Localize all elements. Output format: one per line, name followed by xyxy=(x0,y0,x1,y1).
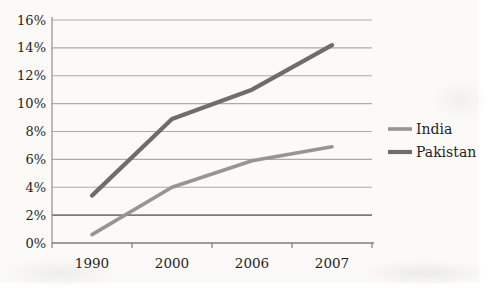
x-axis-label: 2000 xyxy=(155,255,189,271)
y-axis-label: 16% xyxy=(17,13,46,28)
y-axis-label: 0% xyxy=(25,236,46,251)
x-axis-label: 2006 xyxy=(235,255,269,271)
y-axis-label: 14% xyxy=(17,40,46,55)
legend-label-india: India xyxy=(416,121,452,137)
y-axis-label: 6% xyxy=(25,152,46,167)
legend-label-pakistan: Pakistan xyxy=(416,144,476,160)
y-axis-label: 8% xyxy=(25,124,46,139)
y-axis-label: 12% xyxy=(17,68,46,83)
x-axis-label: 1990 xyxy=(75,255,109,271)
y-axis-label: 4% xyxy=(25,180,46,195)
y-axis-label: 2% xyxy=(25,208,46,223)
y-axis-label: 10% xyxy=(17,96,46,111)
x-axis-label: 2007 xyxy=(315,255,349,271)
